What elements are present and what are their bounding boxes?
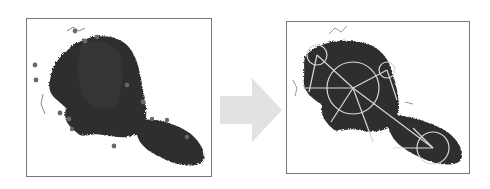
output-panel [286,21,470,174]
input-panel [26,18,212,177]
arrow-right-icon [218,78,284,142]
silhouette-with-keypoints-image [27,19,211,176]
silhouette-with-skeleton-image [287,22,469,173]
